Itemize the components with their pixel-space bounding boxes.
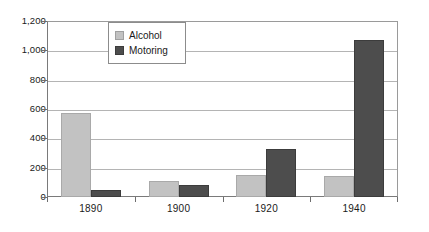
legend-label-alcohol: Alcohol [129, 30, 162, 41]
gridline [48, 81, 397, 82]
y-axis-tick-mark [41, 50, 47, 51]
gridline [48, 169, 397, 170]
bar-alcohol-1890 [61, 113, 91, 197]
y-axis-tick-label: 200 [2, 162, 46, 173]
y-axis-tick-label: 1,200 [2, 15, 46, 26]
legend-label-motoring: Motoring [129, 45, 168, 56]
gridline [48, 139, 397, 140]
y-axis-tick-label: 600 [2, 103, 46, 114]
x-axis-tick-label: 1940 [309, 203, 399, 214]
bar-motoring-1900 [179, 185, 209, 197]
legend-item-alcohol: Alcohol [115, 28, 179, 43]
gridline [48, 51, 397, 52]
y-axis-tick-label: 400 [2, 132, 46, 143]
bar-chart: 02004006008001,0001,200 1890190019201940… [0, 0, 429, 232]
y-axis-tick-label: 1,000 [2, 44, 46, 55]
x-axis-tick-mark [310, 197, 311, 202]
x-axis-tick-label: 1890 [46, 203, 136, 214]
bar-alcohol-1920 [236, 175, 266, 197]
gridline [48, 110, 397, 111]
plot-area [47, 21, 398, 197]
bar-motoring-1940 [354, 40, 384, 197]
y-axis-tick-mark [41, 138, 47, 139]
y-axis-tick-label: 0 [2, 191, 46, 202]
legend-item-motoring: Motoring [115, 43, 179, 58]
y-axis-tick-label: 800 [2, 74, 46, 85]
bar-alcohol-1940 [324, 176, 354, 197]
y-axis-tick-mark [41, 168, 47, 169]
x-axis-tick-mark [47, 197, 48, 202]
x-axis-tick-label: 1920 [221, 203, 311, 214]
y-axis-tick-mark [41, 21, 47, 22]
x-axis-tick-mark [397, 197, 398, 202]
bar-motoring-1920 [266, 149, 296, 197]
y-axis-tick-mark [41, 80, 47, 81]
chart-legend: Alcohol Motoring [108, 22, 186, 64]
x-axis-tick-label: 1900 [134, 203, 224, 214]
bar-motoring-1890 [91, 190, 121, 197]
legend-swatch-alcohol-icon [115, 31, 124, 40]
x-axis-tick-mark [223, 197, 224, 202]
y-axis-tick-mark [41, 109, 47, 110]
legend-swatch-motoring-icon [115, 46, 124, 55]
bar-alcohol-1900 [149, 181, 179, 197]
x-axis-tick-mark [135, 197, 136, 202]
